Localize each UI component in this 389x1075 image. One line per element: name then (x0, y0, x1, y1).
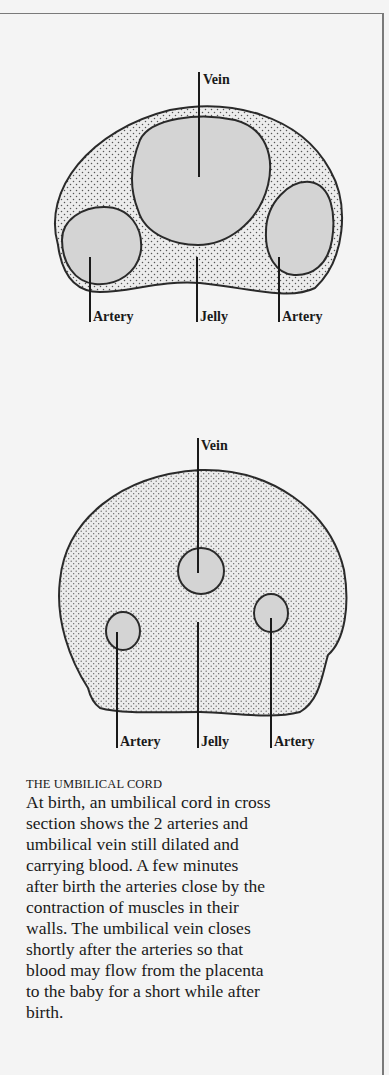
caption-line: blood may flow from the placenta (26, 960, 378, 981)
label-artery-left-bottom: Artery (120, 734, 160, 749)
label-jelly-top: Jelly (200, 309, 228, 324)
caption-line: umbilical vein still dilated and (26, 834, 378, 855)
caption-title: THE UMBILICAL CORD (26, 776, 378, 792)
label-vein-bottom: Vein (201, 438, 228, 453)
artery-left-bottom (106, 612, 140, 650)
label-vein-top: Vein (203, 72, 230, 87)
caption-line: At birth, an umbilical cord in cross (26, 792, 378, 813)
caption-line: birth. (26, 1002, 378, 1023)
label-jelly-bottom: Jelly (201, 734, 229, 749)
vein-bottom (178, 548, 224, 594)
cord-cross-section-after-closure: Vein Artery Jelly Artery (0, 400, 389, 770)
caption-line: walls. The umbilical vein closes (26, 918, 378, 939)
caption-line: shortly after the arteries so that (26, 939, 378, 960)
figure-caption: THE UMBILICAL CORD At birth, an umbilica… (26, 776, 378, 1023)
label-artery-right-top: Artery (282, 309, 322, 324)
artery-left-top (62, 207, 141, 284)
caption-line: to the baby for a short while after (26, 981, 378, 1002)
caption-line: after birth the arteries close by the (26, 876, 378, 897)
label-artery-right-bottom: Artery (274, 734, 314, 749)
caption-line: carrying blood. A few minutes (26, 855, 378, 876)
cord-cross-section-at-birth: Vein Artery Jelly Artery (0, 0, 389, 360)
caption-line: section shows the 2 arteries and (26, 813, 378, 834)
caption-line: contraction of muscles in their (26, 897, 378, 918)
label-artery-left-top: Artery (93, 309, 133, 324)
